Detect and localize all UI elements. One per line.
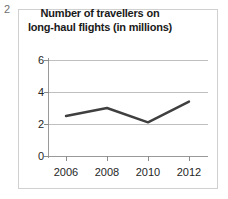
chart-page: 2 Number of travellers on long-haul flig… <box>0 0 228 199</box>
data-line-svg <box>0 0 228 199</box>
data-series-line <box>66 102 189 123</box>
